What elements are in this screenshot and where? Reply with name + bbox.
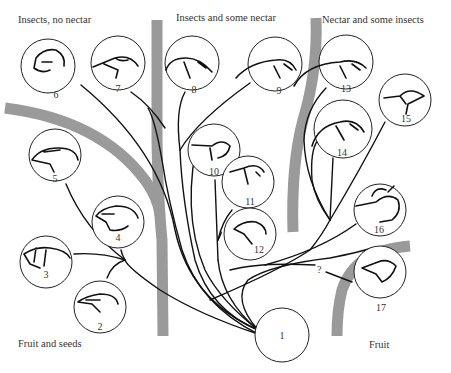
- label-insects-and-some-nectar: Insects and some nectar: [176, 12, 276, 23]
- species-node-6: 6: [21, 39, 75, 100]
- svg-text:3: 3: [44, 269, 49, 280]
- branch-to-2: [107, 260, 125, 278]
- svg-text:16: 16: [374, 224, 384, 235]
- svg-text:9: 9: [277, 85, 282, 96]
- species-node-3: 3: [20, 236, 72, 288]
- species-node-15: 15: [379, 74, 431, 126]
- svg-text:17: 17: [376, 302, 386, 313]
- label-fruit: Fruit: [369, 339, 389, 350]
- branch-to-10b: [215, 180, 218, 260]
- branch-to-16: [265, 224, 356, 265]
- label-nectar-and-some-insects: Nectar and some insects: [322, 14, 424, 25]
- uncertain-link-label: ?: [317, 264, 322, 275]
- honeycreeper-phylogeny-diagram: ? 6 7 8 9 13: [0, 0, 451, 373]
- species-node-5: 5: [29, 129, 81, 184]
- label-fruit-and-seeds: Fruit and seeds: [18, 338, 82, 349]
- svg-text:15: 15: [401, 113, 411, 124]
- svg-text:14: 14: [337, 147, 347, 158]
- label-insects-no-nectar: Insects, no nectar: [18, 14, 91, 25]
- svg-text:10: 10: [209, 166, 219, 177]
- species-node-11: 11: [222, 156, 274, 208]
- svg-text:12: 12: [254, 244, 264, 255]
- svg-text:11: 11: [245, 196, 255, 207]
- species-node-2: 2: [74, 281, 126, 333]
- branch-to-8: [178, 92, 185, 150]
- species-node-8: 8: [165, 36, 219, 95]
- branch-to-14: [330, 158, 333, 220]
- ancestor-node-1: 1: [255, 308, 309, 362]
- svg-text:5: 5: [53, 173, 58, 184]
- svg-text:1: 1: [280, 330, 285, 341]
- species-node-12: 12: [224, 208, 276, 260]
- svg-text:8: 8: [192, 84, 197, 95]
- svg-text:6: 6: [54, 89, 59, 100]
- species-node-9: 9: [236, 37, 302, 96]
- species-node-16: 16: [354, 184, 406, 236]
- band-curved-left: [5, 108, 160, 215]
- species-node-4: 4: [92, 196, 144, 248]
- species-node-7: 7: [91, 36, 145, 94]
- svg-text:13: 13: [341, 83, 351, 94]
- svg-text:4: 4: [116, 232, 121, 243]
- svg-text:7: 7: [116, 83, 121, 94]
- species-node-14: 14: [312, 100, 372, 158]
- species-node-17: 17: [354, 246, 406, 313]
- svg-text:2: 2: [98, 321, 103, 332]
